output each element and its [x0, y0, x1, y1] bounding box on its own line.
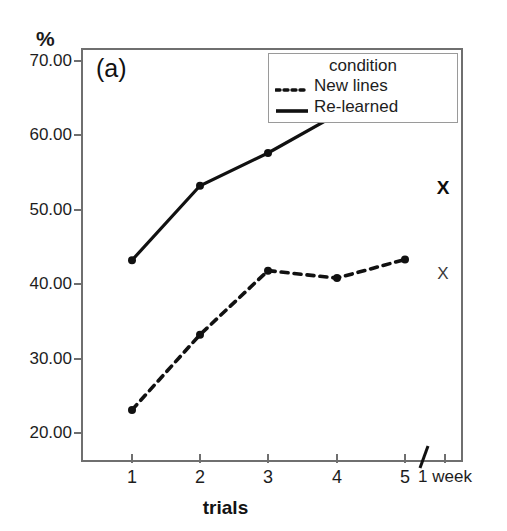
y-tick-mark — [74, 60, 82, 62]
x-tick-mark — [199, 454, 201, 463]
x-axis-title: trials — [0, 498, 507, 517]
y-tick-mark — [74, 358, 82, 360]
legend-swatch-dashed — [275, 81, 309, 91]
x-tick-label: 1 — [127, 468, 137, 486]
y-tick-label: 70.00 — [29, 52, 72, 69]
figure-panel-a: % (a) 20.0030.0040.0050.0060.0070.00 123… — [0, 0, 507, 531]
y-tick-label: 30.00 — [29, 350, 72, 367]
x-tick-label: 5 — [400, 468, 410, 486]
x-tick-label: 1 week — [418, 468, 472, 485]
y-tick-label: 40.00 — [29, 275, 72, 292]
legend-item-re-learned: Re-learned — [275, 97, 451, 118]
y-tick-label: 50.00 — [29, 201, 72, 218]
legend-label-new-lines: New lines — [314, 77, 388, 96]
y-tick-mark — [74, 432, 82, 434]
y-axis-unit-label: % — [36, 28, 55, 49]
axis-break-icon — [416, 444, 432, 470]
y-tick-label: 20.00 — [29, 424, 72, 441]
x-tick-mark — [444, 454, 446, 463]
legend-swatch-solid — [275, 102, 309, 112]
x-axis-title-text: trials — [203, 498, 248, 517]
x-tick-mark — [404, 454, 406, 463]
x-tick-mark — [131, 454, 133, 463]
legend-title: condition — [275, 56, 451, 76]
y-tick-mark — [74, 209, 82, 211]
legend: condition New lines Re-learned — [268, 53, 458, 123]
legend-label-re-learned: Re-learned — [314, 98, 398, 117]
x-tick-mark — [336, 454, 338, 463]
x-tick-label: 2 — [195, 468, 205, 486]
y-tick-label: 60.00 — [29, 126, 72, 143]
annotation-x-marker: X — [437, 264, 448, 281]
y-tick-mark — [74, 283, 82, 285]
x-tick-label: 3 — [263, 468, 273, 486]
panel-label: (a) — [96, 56, 127, 81]
x-tick-label: 4 — [332, 468, 342, 486]
x-tick-mark — [267, 454, 269, 463]
legend-item-new-lines: New lines — [275, 76, 451, 97]
annotation-x-marker: X — [437, 178, 450, 197]
y-tick-mark — [74, 134, 82, 136]
